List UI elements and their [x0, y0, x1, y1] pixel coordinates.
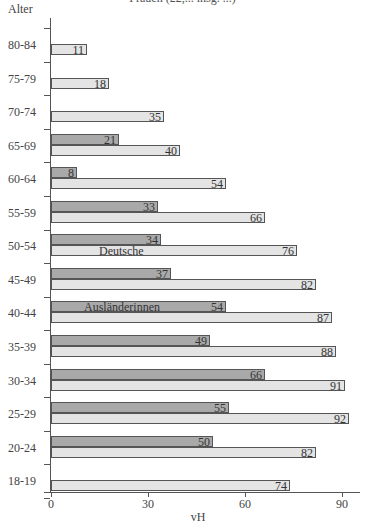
bar-auslaenderinnen: 49 [51, 335, 210, 346]
y-tick [44, 28, 50, 29]
y-axis-title: Alter [8, 2, 33, 17]
y-tick [44, 464, 50, 465]
chart-title: Frauen (22,... insg. ...) [0, 0, 365, 6]
x-axis-line [44, 492, 360, 493]
bar-auslaenderinnen: 8 [51, 167, 77, 178]
x-tick-label: 30 [142, 497, 154, 512]
y-tick [44, 364, 50, 365]
bar-deutsche: 76 [51, 245, 297, 256]
bar-deutsche: 88 [51, 346, 336, 357]
x-tick-label: 0 [48, 497, 54, 512]
category-label: 55-59 [8, 206, 36, 221]
category-label: 65-69 [8, 139, 36, 154]
category-label: 50-54 [8, 239, 36, 254]
bar-deutsche: 82 [51, 279, 316, 290]
category-label: 20-24 [8, 441, 36, 456]
bar-auslaenderinnen: 33 [51, 201, 158, 212]
category-label: 45-49 [8, 273, 36, 288]
category-label: 25-29 [8, 407, 36, 422]
category-label: 18-19 [8, 474, 36, 489]
x-tick-label: 90 [336, 497, 348, 512]
bar-deutsche: 40 [51, 145, 180, 156]
y-tick [44, 196, 50, 197]
category-label: 30-34 [8, 374, 36, 389]
bar-deutsche: 82 [51, 447, 316, 458]
bar-deutsche: 35 [51, 111, 164, 122]
y-tick [44, 230, 50, 231]
category-label: 75-79 [8, 72, 36, 87]
category-label: 35-39 [8, 340, 36, 355]
bar-deutsche: 74 [51, 480, 290, 491]
category-label: 40-44 [8, 306, 36, 321]
y-tick [44, 397, 50, 398]
annotation-auslaenderinnen: Ausländerinnen [84, 302, 160, 312]
bar-deutsche: 92 [51, 413, 349, 424]
bar-auslaenderinnen: 55 [51, 402, 229, 413]
bar-deutsche: 66 [51, 212, 265, 223]
bar-auslaenderinnen: 37 [51, 268, 171, 279]
x-axis-title: vH [191, 510, 206, 525]
y-tick [44, 431, 50, 432]
y-tick [44, 129, 50, 130]
category-label: 80-84 [8, 38, 36, 53]
y-tick [44, 297, 50, 298]
bar-auslaenderinnen: 21 [51, 134, 119, 145]
category-label: 60-64 [8, 172, 36, 187]
y-tick [44, 162, 50, 163]
bar-deutsche: 91 [51, 380, 345, 391]
y-tick [44, 62, 50, 63]
bar-auslaenderinnen: 50 [51, 436, 213, 447]
category-label: 70-74 [8, 105, 36, 120]
bar-auslaenderinnen: 66 [51, 369, 265, 380]
bar-deutsche: 18 [51, 78, 109, 89]
bar-deutsche: 11 [51, 44, 87, 55]
annotation-deutsche: Deutsche [99, 246, 144, 256]
y-tick [44, 330, 50, 331]
y-tick [44, 263, 50, 264]
y-tick [44, 95, 50, 96]
x-tick-label: 60 [239, 497, 251, 512]
bar-deutsche: 54 [51, 178, 226, 189]
